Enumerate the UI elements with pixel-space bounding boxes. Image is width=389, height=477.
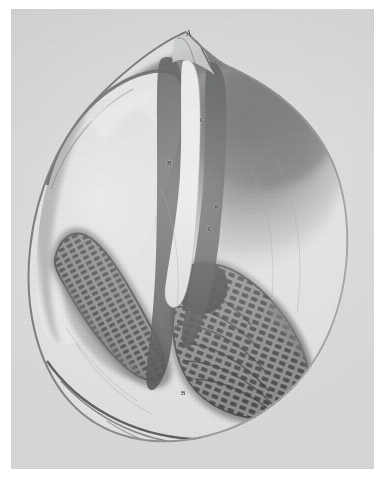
label-a: a: [215, 203, 218, 209]
label-B2: B: [181, 390, 185, 397]
specimen-figure: [11, 9, 374, 469]
label-C2: C: [208, 226, 212, 233]
label-B1: B: [167, 160, 171, 167]
label-A: A: [186, 30, 191, 38]
bottom-right-mark: ·: [366, 441, 368, 447]
label-C1: C: [200, 117, 204, 124]
top-right-mark: ·: [354, 1, 356, 7]
screenshot-root: A C B a C B · ·: [0, 0, 389, 477]
engraving-plate: A C B a C B ·: [11, 9, 374, 469]
